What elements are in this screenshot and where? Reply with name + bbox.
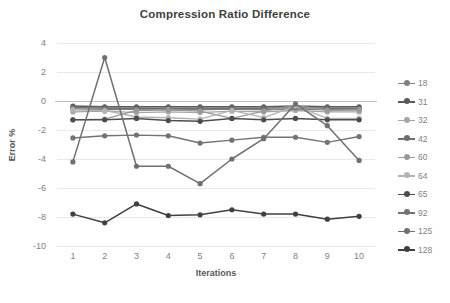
plot-area: [57, 43, 375, 246]
data-point: [261, 117, 266, 122]
data-point: [357, 158, 362, 163]
legend-label: 92: [418, 209, 427, 218]
data-point: [293, 101, 298, 106]
data-point: [102, 133, 107, 138]
series-92: [70, 132, 361, 145]
data-point: [198, 140, 203, 145]
data-point: [229, 138, 234, 143]
x-axis-tick: 1: [70, 252, 75, 261]
legend-item-18[interactable]: 18: [398, 74, 450, 93]
legend-item-125[interactable]: 125: [398, 222, 450, 241]
data-point: [134, 201, 139, 206]
data-point: [70, 159, 75, 164]
data-point: [325, 217, 330, 222]
data-point: [198, 212, 203, 217]
data-point: [325, 140, 330, 145]
data-point: [166, 213, 171, 218]
x-axis-tick: 9: [325, 252, 330, 261]
data-point: [134, 164, 139, 169]
legend-swatch-icon: [398, 208, 415, 218]
data-point: [102, 55, 107, 60]
x-axis-tick: 5: [198, 252, 203, 261]
data-point: [166, 133, 171, 138]
legend-swatch-icon: [398, 152, 415, 162]
data-point: [166, 164, 171, 169]
legend-swatch-icon: [398, 245, 415, 255]
data-point: [325, 123, 330, 128]
data-point: [102, 117, 107, 122]
legend-swatch-icon: [398, 97, 415, 107]
data-point: [357, 107, 362, 112]
data-point: [229, 156, 234, 161]
data-point: [293, 135, 298, 140]
x-axis-tick: 3: [134, 252, 139, 261]
x-axis-tick: 6: [229, 252, 234, 261]
legend-label: 60: [418, 153, 427, 162]
y-axis-tick: -6: [8, 184, 46, 193]
compression-ratio-difference-chart: Compression Ratio Difference 420-2-4-6-8…: [0, 0, 450, 303]
series-128: [70, 201, 361, 225]
data-point: [70, 117, 75, 122]
legend-swatch-icon: [398, 171, 415, 181]
y-axis-tick: -10: [8, 242, 46, 251]
chart-title: Compression Ratio Difference: [0, 8, 450, 20]
data-point: [198, 109, 203, 114]
legend-label: 18: [418, 79, 427, 88]
x-axis-tick-labels: 12345678910: [57, 252, 375, 266]
y-axis-tick: -8: [8, 213, 46, 222]
legend-item-60[interactable]: 60: [398, 148, 450, 167]
data-point: [325, 117, 330, 122]
legend-label: 64: [418, 172, 427, 181]
series-line: [73, 204, 359, 223]
legend-swatch-icon: [398, 78, 415, 88]
data-point: [70, 107, 75, 112]
legend-label: 31: [418, 98, 427, 107]
gridline: [57, 246, 375, 247]
x-axis-tick: 2: [102, 252, 107, 261]
x-axis-tick: 10: [354, 252, 364, 261]
x-axis-title: Iterations: [57, 268, 375, 278]
data-point: [229, 207, 234, 212]
data-point: [357, 134, 362, 139]
data-point: [102, 220, 107, 225]
data-point: [166, 107, 171, 112]
data-point: [357, 214, 362, 219]
data-point: [198, 181, 203, 186]
x-axis-tick: 4: [166, 252, 171, 261]
data-point: [198, 119, 203, 124]
data-point: [293, 212, 298, 217]
data-point: [134, 132, 139, 137]
legend-item-32[interactable]: 32: [398, 111, 450, 130]
data-point: [229, 116, 234, 121]
legend-label: 42: [418, 135, 427, 144]
data-point: [102, 108, 107, 113]
y-axis-title: Error %: [7, 115, 17, 175]
legend-item-65[interactable]: 65: [398, 185, 450, 204]
data-point: [261, 136, 266, 141]
data-point: [229, 108, 234, 113]
series-line: [73, 135, 359, 143]
series-layer: [57, 43, 375, 246]
data-point: [134, 116, 139, 121]
y-axis-tick: 0: [8, 97, 46, 106]
data-point: [70, 212, 75, 217]
series-line: [73, 106, 359, 107]
data-point: [70, 135, 75, 140]
data-point: [261, 212, 266, 217]
legend-item-128[interactable]: 128: [398, 241, 450, 260]
x-axis-tick: 8: [293, 252, 298, 261]
legend-label: 128: [418, 246, 432, 255]
data-point: [166, 118, 171, 123]
x-axis-tick: 7: [261, 252, 266, 261]
legend-label: 32: [418, 116, 427, 125]
legend-item-42[interactable]: 42: [398, 130, 450, 149]
legend-item-92[interactable]: 92: [398, 204, 450, 223]
data-point: [293, 116, 298, 121]
chart-legend: 1831324260646592125128: [398, 74, 450, 259]
data-point: [261, 109, 266, 114]
legend-label: 125: [418, 227, 432, 236]
legend-swatch-icon: [398, 189, 415, 199]
legend-item-31[interactable]: 31: [398, 93, 450, 112]
y-axis-tick: 4: [8, 39, 46, 48]
legend-item-64[interactable]: 64: [398, 167, 450, 186]
